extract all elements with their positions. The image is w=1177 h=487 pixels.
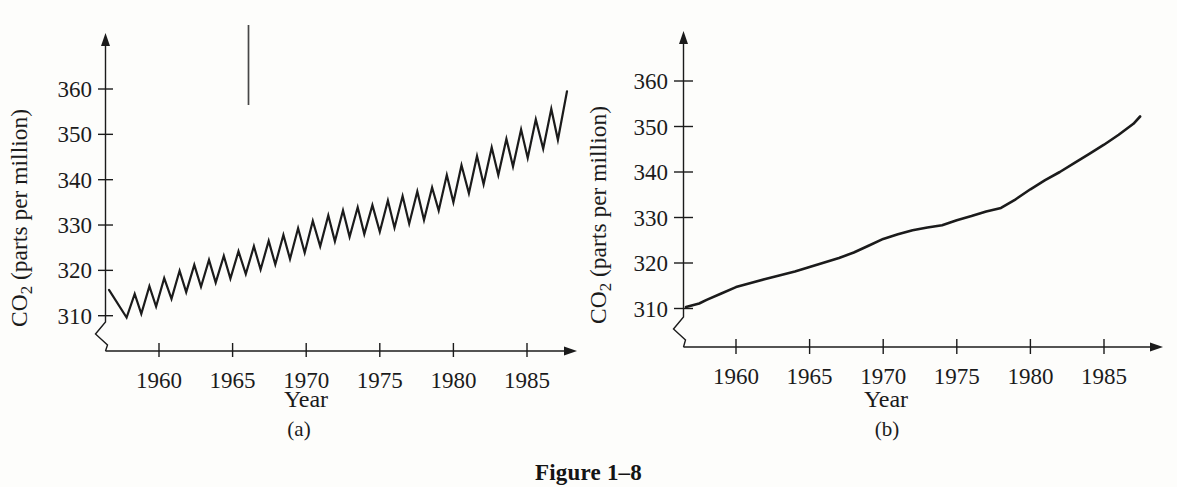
y-tick-label: 360	[58, 77, 93, 102]
subfigure-label: (b)	[875, 417, 900, 441]
x-axis-arrowhead-icon	[1150, 343, 1163, 352]
y-tick-label: 350	[634, 115, 669, 140]
x-tick-label: 1960	[136, 368, 182, 393]
y-axis-arrowhead-icon	[101, 33, 110, 46]
x-tick-label: 1980	[1007, 364, 1053, 389]
y-axis	[674, 44, 686, 347]
co2-figure: 3603503403303203101960196519701975198019…	[0, 0, 1177, 487]
x-axis-arrowhead-icon	[564, 347, 577, 356]
x-tick-label: 1980	[430, 368, 476, 393]
x-axis-title: Year	[864, 386, 908, 412]
y-tick-label: 330	[58, 213, 93, 238]
y-tick-label: 330	[634, 206, 669, 231]
y-tick-label: 340	[58, 168, 93, 193]
x-tick-label: 1975	[357, 368, 403, 393]
figure-caption: Figure 1–8	[0, 460, 1177, 486]
x-tick-label: 1965	[210, 368, 256, 393]
y-tick-label: 320	[634, 251, 669, 276]
x-tick-label: 1985	[504, 368, 550, 393]
y-tick-label: 340	[634, 160, 669, 185]
chart-a-monthly-co2: 3603503403303203101960196519701975198019…	[6, 33, 577, 441]
x-tick-label: 1975	[934, 364, 980, 389]
y-tick-label: 310	[58, 304, 93, 329]
co2-series-line	[686, 117, 1140, 308]
x-tick-label: 1960	[713, 364, 759, 389]
y-tick-label: 360	[634, 69, 669, 94]
co2-series-line	[109, 91, 567, 317]
chart-b-annual-co2: 3603503403303203101960196519701975198019…	[585, 31, 1163, 441]
x-tick-label: 1985	[1081, 364, 1127, 389]
subfigure-label: (a)	[287, 417, 310, 441]
y-tick-label: 310	[634, 297, 669, 322]
y-axis-arrowhead-icon	[679, 31, 688, 44]
x-tick-label: 1965	[787, 364, 833, 389]
y-tick-label: 350	[58, 122, 93, 147]
y-axis-title: CO2 (parts per million)	[6, 109, 36, 327]
y-tick-label: 320	[58, 258, 93, 283]
y-axis-title: CO2 (parts per million)	[585, 106, 615, 324]
y-axis	[96, 46, 108, 351]
x-axis-title: Year	[284, 386, 328, 412]
